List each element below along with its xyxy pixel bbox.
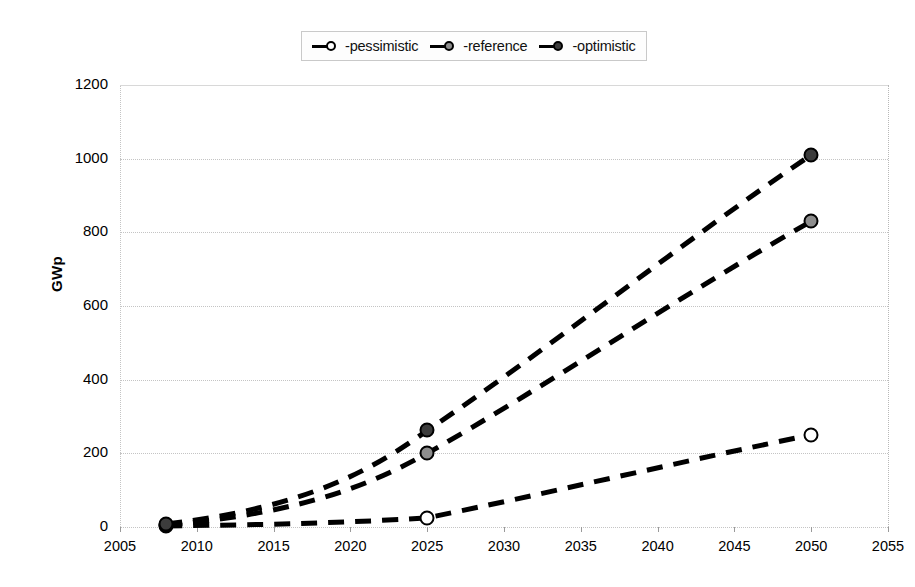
x-tick-mark xyxy=(734,527,735,532)
open-circle-icon xyxy=(312,39,342,53)
x-tick-mark xyxy=(504,527,505,532)
dark-circle-icon xyxy=(539,39,569,53)
gray-circle-icon xyxy=(430,39,460,53)
x-tick-mark xyxy=(197,527,198,532)
y-tick-label: 1000 xyxy=(0,149,108,166)
gridline-y-600 xyxy=(120,306,888,307)
x-tick-mark xyxy=(350,527,351,532)
x-tick-label: 2040 xyxy=(641,538,673,554)
y-tick-label: 0 xyxy=(0,517,108,534)
x-tick-label: 2015 xyxy=(257,538,289,554)
x-tick-label: 2055 xyxy=(872,538,904,554)
x-tick-mark xyxy=(274,527,275,532)
y-axis-title: GWp xyxy=(48,256,65,292)
y-tick-label: 600 xyxy=(0,296,108,313)
gridline-y-800 xyxy=(120,232,888,233)
y-tick-label: 200 xyxy=(0,443,108,460)
legend-label-optimistic: optimistic xyxy=(572,38,635,54)
x-tick-label: 2050 xyxy=(795,538,827,554)
x-tick-mark xyxy=(581,527,582,532)
x-tick-label: 2035 xyxy=(565,538,597,554)
chart-figure: pessimistic reference optimistic GWp 120… xyxy=(0,0,915,587)
legend-entry-reference[interactable]: reference xyxy=(430,38,527,54)
chart-legend: pessimistic reference optimistic xyxy=(301,31,647,61)
legend-label-reference: reference xyxy=(463,38,527,54)
x-tick-mark xyxy=(120,527,121,532)
y-tick-label: 800 xyxy=(0,222,108,239)
x-tick-label: 2005 xyxy=(104,538,136,554)
gridline-y-1200 xyxy=(120,85,888,86)
x-tick-mark xyxy=(888,527,889,532)
legend-entry-optimistic[interactable]: optimistic xyxy=(539,38,635,54)
x-tick-label: 2010 xyxy=(181,538,213,554)
x-tick-label: 2045 xyxy=(718,538,750,554)
legend-entry-pessimistic[interactable]: pessimistic xyxy=(312,38,418,54)
y-tick-label: 1200 xyxy=(0,75,108,92)
x-tick-label: 2020 xyxy=(334,538,366,554)
x-tick-mark xyxy=(811,527,812,532)
plot-area xyxy=(120,85,889,527)
x-tick-mark xyxy=(658,527,659,532)
gridline-y-200 xyxy=(120,453,888,454)
gridline-y-400 xyxy=(120,380,888,381)
gridline-y-1000 xyxy=(120,159,888,160)
y-tick-label: 400 xyxy=(0,370,108,387)
legend-label-pessimistic: pessimistic xyxy=(345,38,418,54)
x-tick-label: 2030 xyxy=(488,538,520,554)
x-tick-mark xyxy=(427,527,428,532)
x-tick-label: 2025 xyxy=(411,538,443,554)
